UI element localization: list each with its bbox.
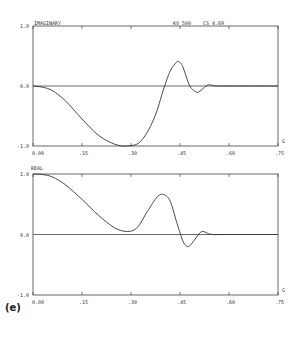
header-param-kv: KV 500 [173, 20, 191, 26]
x-tick-label: .60 [226, 299, 235, 305]
header-param-cs: CS 4.69 [203, 20, 224, 26]
x-tick-label: 0.00 [32, 299, 44, 305]
x-tick-label: .15 [79, 299, 88, 305]
real-plot: REAL 0.00.15.30.45.60.751.00.0-1.0 G [17, 165, 285, 305]
figure-panel-label: (e) [5, 302, 21, 313]
x-tick-label: .45 [177, 150, 186, 156]
x-tick-label: .75 [275, 299, 284, 305]
x-tick-label: .75 [275, 150, 284, 156]
figure: IMAGINARY KV 500 CS 4.69 0.00.15.30.45.6… [0, 0, 302, 345]
x-axis-label: G [282, 287, 285, 293]
x-axis-label: G [282, 138, 285, 144]
y-tick-label: -1.0 [17, 143, 29, 149]
y-tick-label: -1.0 [17, 292, 29, 298]
imaginary-plot: IMAGINARY KV 500 CS 4.69 0.00.15.30.45.6… [17, 20, 285, 157]
x-tick-label: .60 [226, 150, 235, 156]
x-tick-label: .30 [128, 150, 137, 156]
y-tick-label: 0.0 [20, 232, 29, 238]
y-tick-label: 1.0 [20, 23, 29, 29]
x-tick-label: .15 [79, 150, 88, 156]
imaginary-curve [33, 61, 278, 146]
x-tick-label: 0.00 [32, 150, 44, 156]
plot-title: IMAGINARY [34, 20, 61, 26]
x-tick-label: .30 [128, 299, 137, 305]
x-tick-label: .45 [177, 299, 186, 305]
plot-title: REAL [31, 165, 43, 171]
y-tick-label: 0.0 [20, 83, 29, 89]
y-tick-label: 1.0 [20, 171, 29, 177]
real-curve [33, 174, 278, 247]
